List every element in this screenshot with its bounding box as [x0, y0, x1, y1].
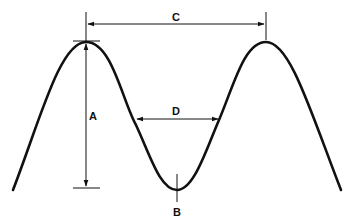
width-dimension: D	[137, 105, 218, 119]
trough-marker: B	[173, 174, 181, 218]
amplitude-dimension: A	[73, 41, 100, 188]
label-a: A	[89, 110, 97, 122]
label-d: D	[172, 105, 180, 117]
label-c: C	[172, 11, 180, 23]
wave-diagram: C A D B	[0, 0, 353, 220]
label-b: B	[173, 206, 181, 218]
wavelength-dimension: C	[86, 11, 266, 42]
